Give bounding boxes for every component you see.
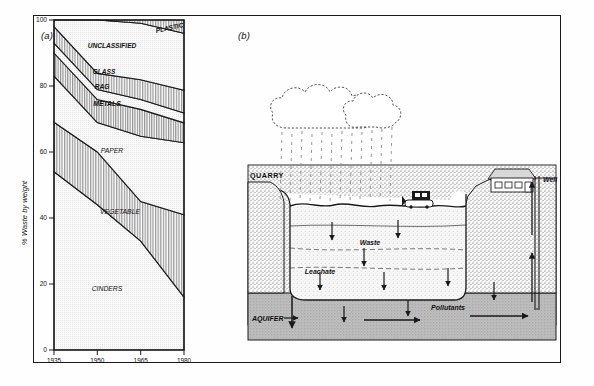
x-tick-1980: 1980 xyxy=(177,357,192,364)
x-tick-1965: 1965 xyxy=(134,357,149,364)
band-label-cinders: CINDERS xyxy=(92,285,123,292)
pollutants-label: Pollutants xyxy=(431,304,465,311)
y-tick-100: 100 xyxy=(36,16,47,23)
x-tick-1935: 1935 xyxy=(47,357,62,364)
y-tick-40: 40 xyxy=(40,214,48,221)
quarry-wall-left xyxy=(248,182,284,293)
band-label-vegetable: VEGETABLE xyxy=(100,208,140,215)
quarry-label: QUARRY xyxy=(250,171,284,180)
band-label-paper: PAPER xyxy=(101,147,124,154)
leachate-label: Leachate xyxy=(305,268,335,275)
house xyxy=(488,169,536,192)
y-axis: 100 80 60 40 20 0 xyxy=(36,16,54,353)
y-tick-0: 0 xyxy=(43,346,47,353)
waste-composition-chart: 100 80 60 40 20 0 % Waste by weight 1935… xyxy=(12,8,242,378)
aquifer-label: AQUIFER xyxy=(251,315,284,323)
waste-body xyxy=(290,206,466,300)
waste-label: Waste xyxy=(360,239,381,246)
y-axis-title: % Waste by weight xyxy=(20,180,29,245)
figure-root: (a) (b) xyxy=(0,0,594,386)
band-label-rag: RAG xyxy=(95,83,110,90)
landfill-pollution-diagram: QUARRY Waste Leachate Pollutants AQUIFER… xyxy=(232,10,572,370)
right-hill xyxy=(464,178,556,293)
band-label-glass: GLASS xyxy=(93,68,116,75)
well-label: Well xyxy=(543,176,558,183)
y-tick-80: 80 xyxy=(40,82,48,89)
x-tick-1950: 1950 xyxy=(90,357,105,364)
y-tick-20: 20 xyxy=(40,280,48,287)
rain-cloud xyxy=(271,85,401,129)
y-tick-60: 60 xyxy=(40,148,48,155)
x-axis: 1935 1950 1965 1980 xyxy=(47,350,192,364)
band-label-unclassified: UNCLASSIFIED xyxy=(88,42,137,49)
band-label-metals: METALS xyxy=(93,100,121,107)
